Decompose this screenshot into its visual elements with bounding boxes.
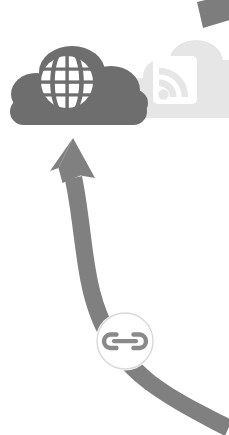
- diagram-canvas: Web cloud Feed cloud Sync arrow pointing…: [0, 0, 229, 435]
- curved-up-arrow-icon: [50, 138, 229, 435]
- rss-icon: [148, 52, 202, 108]
- diagram-svg: [0, 0, 229, 435]
- globe-icon: [39, 54, 95, 110]
- web-cloud: [10, 46, 148, 125]
- arrow-segment-icon: [197, 0, 229, 28]
- link-badge[interactable]: [97, 313, 153, 369]
